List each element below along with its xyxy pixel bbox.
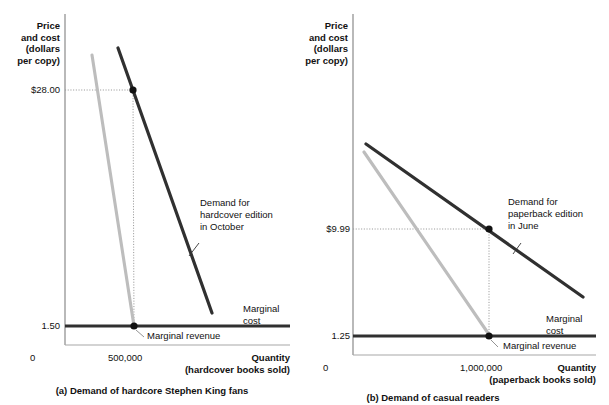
x-tick-label-a: 500,000: [108, 352, 142, 363]
x-origin-label-a: 0: [30, 352, 35, 363]
x-origin-label-b: 0: [323, 362, 328, 373]
panel-a-caption: (a) Demand of hardcore Stephen King fans: [0, 385, 304, 396]
demand-annotation-a: Demand for hardcover edition in October: [200, 197, 273, 233]
y-tick-label-a-cost: 1.50: [0, 320, 60, 331]
price-point-a: [129, 86, 136, 93]
marginal-revenue-annotation-a: Marginal revenue: [147, 330, 220, 342]
quantity-point-b: [485, 332, 492, 339]
quantity-point-a: [130, 322, 137, 329]
y-axis-label-a: Price and cost (dollars per copy): [2, 20, 60, 66]
marginal-revenue-label-leader-b: [491, 340, 498, 347]
marginal-revenue-label-leader-a: [136, 330, 144, 337]
demand-annotation-b: Demand for paperback edition in June: [508, 196, 583, 232]
marginal-revenue-curve-a: [92, 55, 134, 326]
x-axis-sublabel-a: (hardcover books sold): [140, 364, 290, 376]
x-axis-label-b: Quantity: [456, 362, 596, 374]
panel-b-caption: (b) Demand of casual readers: [281, 392, 585, 403]
quantity-guide-line-a: [133, 90, 134, 326]
price-point-b: [485, 225, 492, 232]
panel-a: Price and cost (dollars per copy) $28.00…: [0, 0, 304, 405]
marginal-revenue-curve-b: [364, 152, 490, 336]
marginal-revenue-annotation-b: Marginal revenue: [503, 340, 576, 352]
y-tick-label-b-cost: 1.25: [293, 330, 350, 341]
x-axis-label-a: Quantity: [150, 352, 290, 364]
marginal-cost-annotation-b: Marginal cost: [546, 313, 582, 337]
panel-b: Price and cost (dollars per copy) $9.99 …: [305, 0, 609, 405]
y-tick-label-b-price: $9.99: [293, 223, 350, 234]
x-axis-sublabel-b: (paperback books sold): [445, 374, 596, 386]
y-axis-label-b: Price and cost (dollars per copy): [290, 20, 348, 66]
marginal-cost-annotation-a: Marginal cost: [243, 303, 279, 327]
figure-root: Price and cost (dollars per copy) $28.00…: [0, 0, 609, 405]
y-tick-label-a-price: $28.00: [0, 84, 60, 95]
